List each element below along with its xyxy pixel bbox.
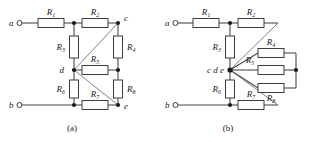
resistor-a-r4 — [114, 36, 123, 58]
label-b-terminal-b: b — [165, 100, 170, 110]
label-a-node-d: d — [60, 65, 65, 75]
caption-panel-a: (a) — [67, 123, 77, 133]
resistor-b-r1 — [193, 19, 219, 28]
label-a-r3: R3 — [56, 42, 66, 53]
label-a-terminal-a: a — [9, 18, 14, 28]
label-a-r5: R5 — [90, 54, 100, 65]
resistor-b-r5 — [258, 66, 284, 75]
resistor-b-r8 — [258, 84, 284, 93]
junction-a-top — [72, 21, 76, 25]
label-a-node-c: c — [124, 13, 128, 23]
terminal-a-bottom — [17, 103, 22, 108]
label-b-r4: R4 — [266, 37, 276, 48]
resistor-b-r7 — [238, 101, 264, 110]
label-a-r8: R8 — [126, 84, 136, 95]
resistor-a-r2 — [82, 19, 108, 28]
label-a-r4: R4 — [126, 42, 136, 53]
resistor-b-r2 — [238, 19, 264, 28]
label-a-r7: R7 — [90, 89, 101, 100]
resistor-b-r6 — [226, 80, 235, 98]
panel-b: a b c d e R1 R2 R3 R4 R5 R8 R6 R7 (b) — [165, 7, 298, 133]
label-b-r2: R2 — [246, 7, 256, 18]
junction-b-right-bus — [294, 68, 298, 72]
junction-a-bottom — [72, 103, 76, 107]
label-b-r7: R7 — [246, 89, 257, 100]
resistor-a-r1 — [38, 19, 64, 28]
terminal-a-top — [17, 21, 22, 26]
circuit-diagram-svg: a b c d e R1 R2 R3 R4 R5 R6 R7 R8 (a) — [0, 0, 312, 142]
resistor-a-r3 — [70, 36, 79, 58]
label-b-r6: R6 — [212, 84, 222, 95]
junction-a-node-d — [72, 68, 76, 72]
label-a-node-e: e — [124, 101, 128, 111]
resistor-a-r5 — [82, 66, 108, 75]
label-a-r1: R1 — [46, 7, 56, 18]
junction-b-node-cde — [227, 67, 232, 72]
label-b-r8: R8 — [266, 93, 276, 104]
label-b-r3: R3 — [212, 42, 222, 53]
label-b-terminal-a: a — [165, 18, 170, 28]
label-a-r2: R2 — [90, 7, 100, 18]
caption-panel-b: (b) — [223, 123, 234, 133]
label-b-r1: R1 — [201, 7, 211, 18]
figure-container: a b c d e R1 R2 R3 R4 R5 R6 R7 R8 (a) — [0, 0, 312, 142]
junction-a-node-e — [116, 103, 120, 107]
terminal-b-top — [173, 21, 178, 26]
resistor-a-r6 — [70, 80, 79, 98]
terminal-b-bottom — [173, 103, 178, 108]
junction-a-mid-right — [116, 68, 120, 72]
panel-a: a b c d e R1 R2 R3 R4 R5 R6 R7 R8 (a) — [9, 7, 136, 133]
resistor-a-r8 — [114, 80, 123, 98]
resistor-b-r3 — [226, 36, 235, 58]
junction-b-bottom — [228, 103, 232, 107]
label-a-r6: R6 — [56, 84, 66, 95]
label-b-node-cde: c d e — [207, 65, 224, 75]
resistor-a-r7 — [82, 101, 108, 110]
junction-b-top — [228, 21, 232, 25]
label-a-terminal-b: b — [9, 100, 14, 110]
resistor-b-r4 — [258, 49, 284, 58]
junction-a-node-c — [116, 21, 120, 25]
